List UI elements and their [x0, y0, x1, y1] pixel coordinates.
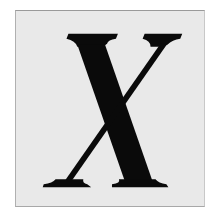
letter-tile [15, 10, 205, 207]
letter-x-glyph [16, 11, 204, 206]
